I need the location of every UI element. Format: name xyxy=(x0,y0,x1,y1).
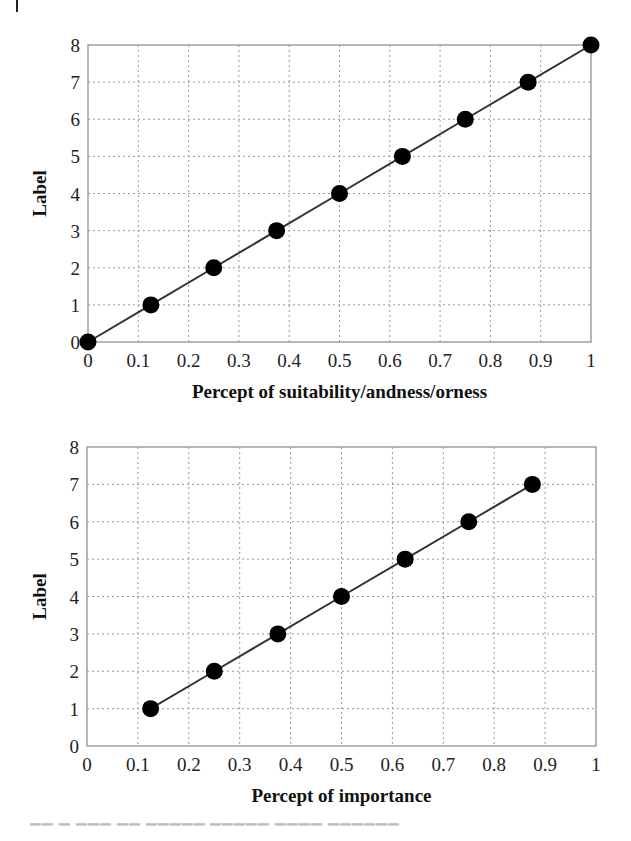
y-tick-label: 2 xyxy=(71,258,81,279)
x-tick-label: 0.4 xyxy=(279,754,303,775)
y-tick-label: 6 xyxy=(71,109,81,130)
data-point-marker xyxy=(394,148,411,165)
data-point-marker xyxy=(520,74,537,91)
data-point-marker xyxy=(333,588,350,605)
figure: 00.10.20.30.40.50.60.70.80.91012345678Pe… xyxy=(0,0,631,841)
y-tick-label: 3 xyxy=(70,624,80,645)
plot-importance: 00.10.20.30.40.50.60.70.80.91012345678Pe… xyxy=(29,437,601,806)
data-point-marker xyxy=(460,513,477,530)
x-tick-label: 0.8 xyxy=(482,754,506,775)
y-tick-label: 1 xyxy=(71,295,81,316)
x-tick-label: 0.8 xyxy=(479,350,503,371)
x-tick-label: 0.7 xyxy=(431,754,455,775)
y-tick-label: 0 xyxy=(70,736,80,757)
x-tick-label: 0.4 xyxy=(277,350,301,371)
y-tick-label: 8 xyxy=(70,437,80,458)
plot-suitability: 00.10.20.30.40.50.60.70.80.91012345678Pe… xyxy=(29,35,600,402)
x-tick-label: 0.9 xyxy=(529,350,553,371)
y-axis-title: Label xyxy=(29,573,50,619)
x-tick-label: 0.5 xyxy=(330,754,354,775)
x-tick-label: 1 xyxy=(591,754,601,775)
y-tick-label: 5 xyxy=(70,549,80,570)
x-tick-label: 0.3 xyxy=(227,350,251,371)
y-tick-label: 6 xyxy=(70,512,80,533)
y-tick-label: 7 xyxy=(71,72,81,93)
data-point-marker xyxy=(583,37,600,54)
data-point-marker xyxy=(142,700,159,717)
x-tick-label: 1 xyxy=(586,350,596,371)
x-tick-label: 0.6 xyxy=(381,754,405,775)
data-point-marker xyxy=(206,663,223,680)
x-tick-label: 0.1 xyxy=(126,754,150,775)
y-tick-label: 8 xyxy=(71,35,81,56)
data-point-marker xyxy=(457,111,474,128)
x-tick-label: 0.9 xyxy=(533,754,557,775)
y-tick-label: 4 xyxy=(71,184,81,205)
x-tick-label: 0 xyxy=(82,754,92,775)
y-tick-label: 0 xyxy=(71,332,81,353)
data-point-marker xyxy=(142,296,159,313)
x-tick-label: 0 xyxy=(83,350,93,371)
data-point-marker xyxy=(205,259,222,276)
data-point-marker xyxy=(524,476,541,493)
x-axis-title: Percept of importance xyxy=(251,785,431,806)
data-point-marker xyxy=(268,222,285,239)
x-tick-label: 0.5 xyxy=(328,350,352,371)
data-point-marker xyxy=(80,334,97,351)
y-tick-label: 2 xyxy=(70,661,80,682)
y-tick-label: 5 xyxy=(71,146,81,167)
x-tick-label: 0.3 xyxy=(228,754,252,775)
data-point-marker xyxy=(397,551,414,568)
y-tick-label: 3 xyxy=(71,221,81,242)
data-point-marker xyxy=(269,625,286,642)
x-tick-label: 0.1 xyxy=(126,350,150,371)
x-tick-label: 0.7 xyxy=(428,350,452,371)
figure-caption-partial: ▔▔ ▔ ▔▔▔ ▔▔ ▔▔▔▔▔ ▔▔▔▔▔ ▔▔▔▔ ▔▔▔▔▔▔ xyxy=(30,823,400,839)
x-tick-label: 0.6 xyxy=(378,350,402,371)
x-tick-label: 0.2 xyxy=(177,350,201,371)
y-tick-label: 4 xyxy=(70,587,80,608)
y-tick-label: 7 xyxy=(70,474,80,495)
x-tick-label: 0.2 xyxy=(177,754,201,775)
y-axis-title: Label xyxy=(29,170,50,216)
data-point-marker xyxy=(331,185,348,202)
y-tick-label: 1 xyxy=(70,699,80,720)
x-axis-title: Percept of suitability/andness/orness xyxy=(192,381,487,402)
